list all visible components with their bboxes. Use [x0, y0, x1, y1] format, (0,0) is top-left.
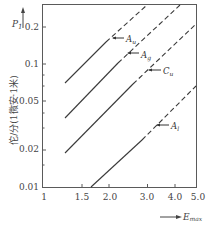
label-C-u: Cu [148, 66, 174, 77]
svg-text:Al: Al [170, 121, 179, 132]
y-tick-0.1: 0.1 [25, 59, 39, 69]
x-tick-2.0: 2.0 [103, 192, 118, 202]
svg-text:Au: Au [125, 34, 136, 45]
x-axis-title: Emax [160, 212, 203, 222]
y-tick-0.01: 0.01 [19, 182, 39, 192]
x-tick-1.5: 1.5 [75, 192, 90, 202]
x-tick-5.0: 5.0 [191, 192, 206, 202]
series-A-g [65, 5, 180, 118]
y-axis-units: 佗/分(1微安·1米) [8, 75, 19, 144]
svg-text:P1: P1 [11, 19, 23, 31]
x-axis-ticks [82, 184, 175, 188]
label-A-g: Ag [127, 50, 151, 62]
x-tick-4.0: 4.0 [168, 192, 183, 202]
y-axis-ticks [43, 27, 47, 165]
y-tick-0.02: 0.02 [19, 144, 39, 154]
log-log-chart: 0.2 0.1 0.05 0.02 0.01 1 1.5 2.0 3.0 4.0… [0, 0, 212, 225]
series-A-l [91, 86, 196, 187]
arrowhead-up-icon [21, 7, 25, 13]
x-tick-3.0: 3.0 [140, 192, 155, 202]
svg-text:Ag: Ag [140, 50, 151, 62]
y-tick-0.05: 0.05 [19, 96, 39, 106]
svg-text:Cu: Cu [163, 66, 174, 77]
y-axis-title: P1 [11, 7, 25, 31]
x-tick-1: 1 [41, 192, 47, 202]
svg-text:Emax: Emax [182, 212, 203, 222]
label-A-u: Au [112, 34, 136, 45]
arrowhead-right-icon [176, 215, 182, 219]
y-tick-0.2: 0.2 [25, 22, 39, 32]
